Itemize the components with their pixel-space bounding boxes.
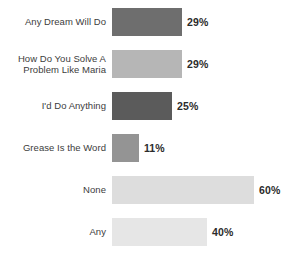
bar-value-label: 29%: [187, 58, 208, 70]
bar-row: Any 40%: [0, 218, 304, 246]
bar-fill: [112, 218, 207, 246]
bar-value-label: 60%: [259, 184, 280, 196]
bar-row: How Do You Solve A Problem Like Maria 29…: [0, 50, 304, 78]
bar-track: 25%: [112, 92, 304, 120]
bar-fill: [112, 92, 172, 120]
bar-category-label: Any: [0, 226, 112, 238]
bar-category-label: Any Dream Will Do: [0, 16, 112, 28]
bar-category-label: Grease Is the Word: [0, 142, 112, 154]
bar-row: Any Dream Will Do 29%: [0, 8, 304, 36]
bar-row: None 60%: [0, 176, 304, 204]
bar-value-label: 40%: [212, 226, 233, 238]
bar-fill: [112, 176, 254, 204]
bar-track: 29%: [112, 8, 304, 36]
bar-fill: [112, 8, 182, 36]
horizontal-bar-chart: Any Dream Will Do 29% How Do You Solve A…: [0, 0, 304, 261]
bar-value-label: 29%: [187, 16, 208, 28]
bar-category-label: I'd Do Anything: [0, 100, 112, 112]
bar-track: 40%: [112, 218, 304, 246]
bar-track: 29%: [112, 50, 304, 78]
bar-category-label: None: [0, 184, 112, 196]
bar-value-label: 11%: [144, 142, 165, 154]
bar-fill: [112, 50, 182, 78]
bar-track: 11%: [112, 134, 304, 162]
bar-row: I'd Do Anything 25%: [0, 92, 304, 120]
bar-category-label: How Do You Solve A Problem Like Maria: [0, 53, 112, 76]
bar-row: Grease Is the Word 11%: [0, 134, 304, 162]
bar-track: 60%: [112, 176, 304, 204]
bar-fill: [112, 134, 139, 162]
bar-value-label: 25%: [177, 100, 198, 112]
